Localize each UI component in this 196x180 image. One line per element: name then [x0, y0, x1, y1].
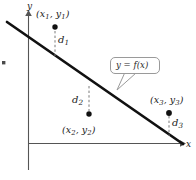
point-3-close: ) [180, 94, 184, 105]
data-point-dot-1 [52, 24, 57, 29]
data-point-label-1: (x1, y1) [36, 9, 70, 21]
d2-subscript: 2 [78, 98, 83, 107]
point-3-mid: , y [164, 94, 176, 105]
margin-mark [2, 61, 5, 64]
d3-subscript: 3 [178, 121, 183, 130]
d1-subscript: 1 [64, 38, 69, 47]
deviation-label-d1: d1 [58, 35, 69, 46]
data-point-label-3: (x3, y3) [150, 95, 184, 107]
callout-label: y = f(x) [116, 61, 148, 70]
diagram-svg [0, 0, 196, 180]
deviation-label-d2: d2 [72, 95, 83, 106]
data-point-dot-2 [86, 111, 91, 116]
point-2-close: ) [92, 124, 96, 135]
y-axis-label: y [27, 2, 32, 11]
point-1-close: ) [66, 8, 70, 19]
figure-canvas: y x y = f(x) (x1, y1) (x2, y2) (x3, y3) … [0, 0, 196, 180]
data-point-label-2: (x2, y2) [62, 125, 96, 137]
data-point-dot-3 [166, 110, 172, 116]
x-axis [28, 140, 186, 147]
point-2-mid: , y [76, 124, 88, 135]
point-1-open: (x [36, 8, 45, 19]
point-3-open: (x [150, 94, 159, 105]
point-1-mid: , y [50, 8, 62, 19]
point-2-open: (x [62, 124, 71, 135]
deviation-label-d3: d3 [172, 118, 183, 129]
x-axis-label: x [186, 140, 191, 149]
